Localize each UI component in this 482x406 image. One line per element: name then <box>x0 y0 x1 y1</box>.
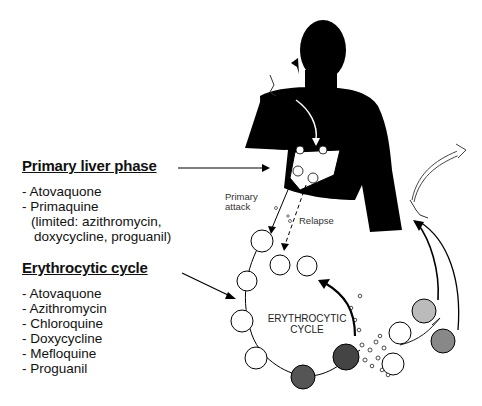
erythrocytic-drug-list: - Atovaquone - Azithromycin - Chloroquin… <box>22 286 107 376</box>
drug-note: (limited: azithromycin, <box>22 214 171 229</box>
drug-item: - Doxycycline <box>22 331 107 346</box>
primary-attack-label: Primary attack <box>225 192 258 212</box>
drug-item: - Azithromycin <box>22 301 107 316</box>
drug-item: - Atovaquone <box>22 184 171 199</box>
erythrocytic-cycle-heading: Erythrocytic cycle <box>22 259 148 276</box>
erythrocytic-cycle-label: ERYTHROCYTIC CYCLE <box>262 313 352 335</box>
erythrocyte-cells <box>231 230 455 389</box>
drug-item: - Primaquine <box>22 199 171 214</box>
human-silhouette <box>245 20 402 232</box>
drug-item: - Proguanil <box>22 361 107 376</box>
drug-note: doxycycline, proguanil) <box>22 229 171 244</box>
erythrocytic-arrow <box>182 273 230 296</box>
primary-liver-phase-heading: Primary liver phase <box>22 157 157 174</box>
liver-phase-drug-list: - Atovaquone - Primaquine (limited: azit… <box>22 184 171 244</box>
drug-item: - Chloroquine <box>22 316 107 331</box>
drug-item: - Mefloquine <box>22 346 107 361</box>
relapse-label: Relapse <box>299 216 334 226</box>
drug-item: - Atovaquone <box>22 286 107 301</box>
